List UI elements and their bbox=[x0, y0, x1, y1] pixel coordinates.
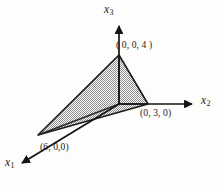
axis-label-x2: x2 bbox=[201, 95, 210, 108]
axis-label-x2-subscript: 2 bbox=[206, 99, 210, 108]
intercept-label-x1: (6, 0,0) bbox=[40, 142, 69, 152]
axis-label-x3-subscript: 3 bbox=[109, 8, 113, 17]
intercept-label-x3: ( 0, 0, 4 ) bbox=[116, 40, 152, 50]
axis-label-x3: x3 bbox=[104, 4, 113, 17]
axis-label-x1-subscript: 1 bbox=[10, 161, 14, 170]
coordinate-diagram bbox=[0, 0, 222, 191]
shaded-plane-triangle bbox=[38, 55, 148, 135]
intercept-label-x2: (0, 3, 0) bbox=[140, 108, 171, 118]
figure-container: x3 x2 x1 ( 0, 0, 4 ) (0, 3, 0) (6, 0,0) bbox=[0, 0, 222, 191]
axis-label-x1: x1 bbox=[5, 157, 14, 170]
